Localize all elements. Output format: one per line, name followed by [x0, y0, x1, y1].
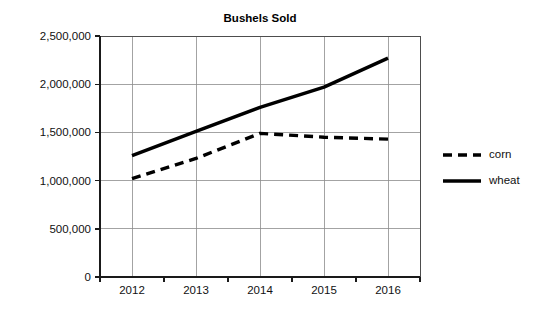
chart-container: Bushels Sold 0500,0001,000,0001,500,0002…	[0, 0, 545, 320]
y-tick-label: 1,000,000	[40, 175, 91, 187]
x-tick-label: 2015	[311, 284, 337, 296]
x-tick-label: 2014	[247, 284, 273, 296]
chart-background	[0, 0, 545, 320]
chart-title: Bushels Sold	[224, 12, 297, 24]
x-tick-label: 2013	[183, 284, 209, 296]
y-tick-label: 2,500,000	[40, 30, 91, 42]
x-tick-label: 2016	[375, 284, 401, 296]
y-tick-label: 1,500,000	[40, 126, 91, 138]
x-tick-label: 2012	[119, 284, 145, 296]
line-chart: Bushels Sold 0500,0001,000,0001,500,0002…	[0, 0, 545, 320]
y-tick-label: 0	[85, 271, 91, 283]
legend-label-wheat: wheat	[488, 174, 520, 186]
y-tick-label: 2,000,000	[40, 78, 91, 90]
y-tick-label: 500,000	[49, 223, 91, 235]
legend-label-corn: corn	[489, 148, 511, 160]
